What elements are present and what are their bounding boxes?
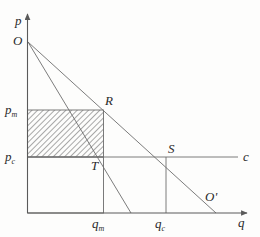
- origin-label: O: [13, 34, 22, 47]
- point-t-label: T: [91, 159, 98, 172]
- quantity-competitive-label: qc: [155, 217, 165, 230]
- price-monopoly-label: pm: [5, 103, 17, 116]
- price-monopoly-base: p: [5, 102, 12, 117]
- quantity-monopoly-base: q: [92, 216, 99, 231]
- quantity-monopoly-label: qm: [92, 217, 104, 230]
- price-monopoly-subscript: m: [12, 110, 18, 119]
- price-competitive-base: p: [5, 149, 12, 164]
- point-s-label: S: [168, 142, 175, 155]
- quantity-axis-label: q: [238, 216, 245, 229]
- price-axis-label: p: [15, 14, 22, 27]
- quantity-monopoly-subscript: m: [99, 224, 105, 233]
- point-r-label: R: [105, 94, 113, 107]
- diagram-canvas: [0, 0, 260, 237]
- quantity-competitive-subscript: c: [162, 224, 166, 233]
- economics-diagram: p q O O' pm pc qm qc c R S T: [0, 0, 260, 237]
- demand-endpoint-label: O': [205, 190, 217, 203]
- monopoly-profit-region: [28, 110, 104, 157]
- price-competitive-label: pc: [5, 150, 15, 163]
- cost-line-label: c: [243, 150, 249, 163]
- price-competitive-subscript: c: [12, 157, 16, 166]
- quantity-competitive-base: q: [155, 216, 162, 231]
